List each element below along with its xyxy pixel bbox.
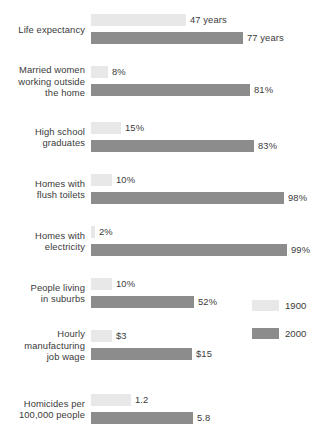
row-label-line: 100,000 people <box>0 409 85 421</box>
row-label-line: the home <box>0 87 85 99</box>
bar-2000 <box>91 192 284 204</box>
bar-value-1900: $3 <box>112 330 127 342</box>
row-label-line: electricity <box>0 241 85 253</box>
bar-1900 <box>91 394 131 406</box>
legend-label-2000: 2000 <box>279 328 306 339</box>
row-label-line: working outside <box>0 76 85 88</box>
bar-1900 <box>91 122 121 134</box>
bar-line-1900: 10% <box>91 174 135 186</box>
bar-1900 <box>91 330 112 342</box>
row-label-line: Life expectancy <box>0 24 85 36</box>
bar-value-2000: 83% <box>254 140 277 152</box>
row-label-line: graduates <box>0 137 85 149</box>
bar-value-2000: $15 <box>192 348 212 360</box>
row-label-line: Homicides per <box>0 398 85 410</box>
row-label: Hourlymanufacturingjob wage <box>0 328 85 363</box>
light-gray-swatch <box>252 300 279 311</box>
row-label-line: Hourly <box>0 328 85 340</box>
bar-value-1900: 10% <box>112 174 135 186</box>
bar-value-1900: 2% <box>95 226 113 238</box>
bar-1900 <box>91 278 112 290</box>
bar-line-2000: 99% <box>91 244 310 256</box>
row-label-line: job wage <box>0 351 85 363</box>
bar-value-2000: 5.8 <box>193 412 210 424</box>
row-label: Homes withflush toilets <box>0 178 85 201</box>
bar-value-1900: 47 years <box>186 14 227 26</box>
bar-1900 <box>91 66 108 78</box>
row-label-line: flush toilets <box>0 189 85 201</box>
row-label: Homicides per100,000 people <box>0 398 85 421</box>
bar-value-1900: 8% <box>108 66 126 78</box>
bar-value-2000: 81% <box>250 84 273 96</box>
bar-value-2000: 99% <box>287 244 310 256</box>
bar-line-1900: 47 years <box>91 14 227 26</box>
bar-1900 <box>91 174 112 186</box>
row-label: Homes withelectricity <box>0 230 85 253</box>
bar-line-2000: 5.8 <box>91 412 210 424</box>
bar-2000 <box>91 348 192 360</box>
bar-line-1900: 15% <box>91 122 144 134</box>
bar-2000 <box>91 296 194 308</box>
bar-2000 <box>91 84 250 96</box>
bar-value-1900: 15% <box>121 122 144 134</box>
chart-legend: 1900 2000 <box>252 300 324 356</box>
bar-line-2000: 98% <box>91 192 307 204</box>
bar-line-1900: 2% <box>91 226 113 238</box>
bar-line-2000: 77 years <box>91 32 284 44</box>
bar-2000 <box>91 140 254 152</box>
bar-value-2000: 52% <box>194 296 217 308</box>
bar-line-2000: $15 <box>91 348 212 360</box>
row-label: Married womenworking outsidethe home <box>0 64 85 99</box>
bar-value-2000: 98% <box>284 192 307 204</box>
bar-line-2000: 83% <box>91 140 277 152</box>
bar-value-2000: 77 years <box>243 32 284 44</box>
bar-value-1900: 10% <box>112 278 135 290</box>
row-label-line: People living <box>0 282 85 294</box>
bar-line-1900: $3 <box>91 330 127 342</box>
row-label-line: Homes with <box>0 178 85 190</box>
bar-value-1900: 1.2 <box>131 394 148 406</box>
comparison-bar-chart: Life expectancy47 years77 yearsMarried w… <box>0 0 324 439</box>
bar-line-1900: 8% <box>91 66 126 78</box>
row-label-line: Homes with <box>0 230 85 242</box>
row-label-line: manufacturing <box>0 340 85 352</box>
row-label-line: Married women <box>0 64 85 76</box>
bar-2000 <box>91 244 287 256</box>
legend-item-1900: 1900 <box>252 300 324 312</box>
legend-label-1900: 1900 <box>279 300 306 311</box>
bar-line-1900: 1.2 <box>91 394 148 406</box>
row-label: High schoolgraduates <box>0 126 85 149</box>
row-label-line: in suburbs <box>0 293 85 305</box>
row-label: Life expectancy <box>0 24 85 36</box>
bar-2000 <box>91 412 193 424</box>
bar-line-2000: 52% <box>91 296 217 308</box>
bar-1900 <box>91 14 186 26</box>
row-label: People livingin suburbs <box>0 282 85 305</box>
bar-line-1900: 10% <box>91 278 135 290</box>
row-label-line: High school <box>0 126 85 138</box>
dark-gray-swatch <box>252 328 279 339</box>
bar-2000 <box>91 32 243 44</box>
bar-line-2000: 81% <box>91 84 273 96</box>
legend-item-2000: 2000 <box>252 328 324 340</box>
